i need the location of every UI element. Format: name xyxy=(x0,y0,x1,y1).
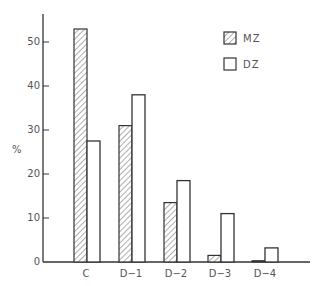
category-label: D−1 xyxy=(120,268,142,279)
bar-mz-d4 xyxy=(252,261,265,262)
legend-label-mz: MZ xyxy=(243,33,260,44)
legend: MZ DZ xyxy=(224,32,260,70)
bar-dz-d3 xyxy=(221,214,234,262)
category-label: D−4 xyxy=(254,268,276,279)
bar-dz-d2 xyxy=(177,181,190,262)
bar-dz-c xyxy=(87,141,100,262)
y-tick-label: 0 xyxy=(34,256,40,267)
y-ticks xyxy=(43,42,49,218)
legend-swatch-dz xyxy=(224,58,236,70)
bar-mz-d3 xyxy=(208,255,221,262)
legend-label-dz: DZ xyxy=(243,59,260,70)
legend-swatch-mz xyxy=(224,32,236,44)
category-label: D−3 xyxy=(209,268,231,279)
category-label: D−2 xyxy=(165,268,187,279)
bar-mz-c xyxy=(74,29,87,262)
bar-mz-d2 xyxy=(164,203,177,262)
y-tick-label: 10 xyxy=(27,212,40,223)
y-tick-label: 30 xyxy=(27,124,40,135)
y-tick-labels: 0 10 20 30 40 50 xyxy=(27,36,40,267)
y-tick-label: 20 xyxy=(27,168,40,179)
y-axis-label: % xyxy=(12,144,22,155)
bar-chart: 0 10 20 30 40 50 % C D−1 D−2 D−3 D−4 MZ … xyxy=(0,0,323,286)
bar-dz-d1 xyxy=(132,95,145,262)
bar-mz-d1 xyxy=(119,126,132,262)
x-tick-labels: C D−1 D−2 D−3 D−4 xyxy=(83,268,277,279)
y-tick-label: 50 xyxy=(27,36,40,47)
category-label: C xyxy=(83,268,90,279)
bars-dz xyxy=(87,95,278,262)
bar-dz-d4 xyxy=(265,248,278,262)
y-tick-label: 40 xyxy=(27,80,40,91)
